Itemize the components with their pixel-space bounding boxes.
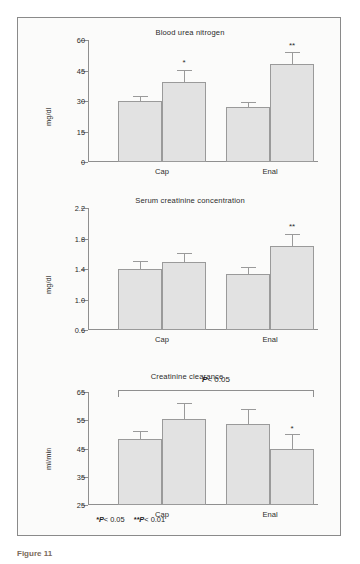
significance-bracket bbox=[118, 390, 314, 397]
plot-area: 0.6 1.0 1.4 1.8 2.2 ** Cap Enal bbox=[88, 208, 318, 330]
errorbar-cap-treatment bbox=[184, 254, 185, 262]
y-axis bbox=[88, 208, 89, 330]
x-tick-label-cap: Cap bbox=[155, 167, 169, 176]
significance-marker-cap: * bbox=[182, 59, 185, 67]
y-tick-label: 2.2 bbox=[75, 204, 85, 213]
y-tick-label: 45 bbox=[77, 66, 85, 75]
y-tick-label: 0 bbox=[81, 158, 85, 167]
bar-enal-treatment bbox=[270, 246, 314, 330]
y-axis-label: mg/dl bbox=[44, 275, 53, 294]
bar-enal-baseline bbox=[226, 274, 270, 330]
y-axis bbox=[88, 392, 89, 505]
errorbar-cap-baseline bbox=[140, 262, 141, 269]
plot-area: 0 15 30 45 60 * ** Cap Enal bbox=[88, 40, 318, 162]
chart-serum-creatinine-concentration: Serum creatinine concentration mg/dl 0.6… bbox=[18, 194, 342, 362]
chart-title: Creatinine clearance bbox=[18, 372, 342, 381]
y-axis-label: ml/min bbox=[44, 448, 53, 470]
bar-cap-treatment bbox=[162, 82, 206, 162]
errorbar-cap-baseline bbox=[140, 97, 141, 101]
errorbar-cap-tip bbox=[177, 70, 192, 71]
bar-enal-baseline bbox=[226, 107, 270, 162]
y-axis bbox=[88, 40, 89, 162]
bar-cap-baseline bbox=[118, 439, 162, 505]
x-tick-label-enal: Enal bbox=[262, 167, 277, 176]
errorbar-cap-treatment bbox=[184, 404, 185, 420]
errorbar-cap-tip bbox=[177, 403, 192, 404]
bar-enal-treatment bbox=[270, 64, 314, 162]
chart-title: Blood urea nitrogen bbox=[18, 28, 342, 37]
errorbar-enal-treatment bbox=[292, 235, 293, 246]
x-tick-label-enal: Enal bbox=[262, 510, 277, 519]
chart-creatinine-clearance: Creatinine clearance ml/min 25 35 45 55 … bbox=[18, 370, 342, 537]
bar-cap-treatment bbox=[162, 262, 206, 330]
bar-cap-baseline bbox=[118, 269, 162, 330]
errorbar-enal-treatment bbox=[292, 435, 293, 449]
errorbar-cap-tip bbox=[177, 253, 192, 254]
y-tick-label: 35 bbox=[77, 472, 85, 481]
significance-footnote: *P< 0.05**P< 0.01 bbox=[96, 515, 165, 524]
errorbar-enal-tip bbox=[241, 102, 256, 103]
significance-marker-enal: ** bbox=[289, 42, 295, 50]
errorbar-enal-tip bbox=[241, 267, 256, 268]
plot-area: 25 35 45 55 65 P< 0.05 * Cap Enal bbox=[88, 392, 318, 505]
y-tick-label: 1.8 bbox=[75, 234, 85, 243]
errorbar-enal-tip bbox=[285, 434, 300, 435]
x-tick-label-cap: Cap bbox=[155, 335, 169, 344]
significance-bracket-label: P< 0.05 bbox=[202, 375, 230, 384]
footnote-star-two-value: < 0.01 bbox=[144, 515, 165, 524]
y-tick-label: 55 bbox=[77, 416, 85, 425]
y-tick-label: 65 bbox=[77, 388, 85, 397]
errorbar-enal-treatment bbox=[292, 53, 293, 64]
errorbar-enal-tip bbox=[285, 52, 300, 53]
significance-marker-enal: * bbox=[290, 425, 293, 433]
errorbar-enal-tip bbox=[285, 234, 300, 235]
errorbar-cap-baseline bbox=[140, 432, 141, 438]
bar-cap-treatment bbox=[162, 419, 206, 505]
errorbar-cap-treatment bbox=[184, 71, 185, 82]
errorbar-enal-baseline bbox=[248, 410, 249, 424]
bar-enal-baseline bbox=[226, 424, 270, 505]
y-tick-label: 0.6 bbox=[75, 326, 85, 335]
errorbar-cap-tip bbox=[133, 96, 148, 97]
y-tick-label: 25 bbox=[77, 501, 85, 510]
p-value: < 0.05 bbox=[207, 375, 229, 384]
y-axis-label: mg/dl bbox=[44, 107, 53, 126]
bar-enal-treatment bbox=[270, 449, 314, 505]
y-tick-label: 1.4 bbox=[75, 265, 85, 274]
errorbar-cap-tip bbox=[133, 431, 148, 432]
y-tick-label: 60 bbox=[77, 36, 85, 45]
errorbar-enal-tip bbox=[241, 409, 256, 410]
chart-blood-urea-nitrogen: Blood urea nitrogen mg/dl 0 15 30 45 60 … bbox=[18, 26, 342, 194]
errorbar-cap-tip bbox=[133, 261, 148, 262]
footnote-star-one-value: < 0.05 bbox=[104, 515, 125, 524]
figure-panel: Blood urea nitrogen mg/dl 0 15 30 45 60 … bbox=[17, 17, 341, 536]
y-tick-label: 45 bbox=[77, 444, 85, 453]
bar-cap-baseline bbox=[118, 101, 162, 162]
errorbar-enal-baseline bbox=[248, 103, 249, 107]
footnote-star-one-symbol: *P bbox=[96, 515, 104, 524]
y-tick-label: 15 bbox=[77, 127, 85, 136]
x-tick-label-enal: Enal bbox=[262, 335, 277, 344]
chart-title: Serum creatinine concentration bbox=[18, 196, 342, 205]
y-tick-label: 1.0 bbox=[75, 295, 85, 304]
figure-caption: Figure 11 bbox=[17, 549, 52, 558]
significance-marker-enal: ** bbox=[289, 223, 295, 231]
errorbar-enal-baseline bbox=[248, 268, 249, 274]
y-tick-label: 30 bbox=[77, 97, 85, 106]
footnote-star-two-symbol: **P bbox=[134, 515, 145, 524]
